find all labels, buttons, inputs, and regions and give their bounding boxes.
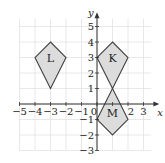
shape-label-l: L	[47, 52, 55, 65]
y-tick-label: 4	[88, 37, 94, 48]
y-axis-arrow-icon	[95, 12, 100, 18]
y-tick-label: −3	[79, 145, 94, 156]
x-tick-label: 3	[140, 106, 146, 117]
coordinate-plane: LKMxy−5−4−3−2−102354321−1−2−3	[0, 0, 165, 163]
y-tick-label: 1	[88, 83, 94, 94]
shape-label-k: K	[108, 52, 117, 65]
y-tick-label: −1	[79, 114, 94, 125]
x-tick-label: −4	[28, 106, 43, 117]
y-tick-label: 5	[88, 21, 94, 32]
shape-k	[97, 42, 128, 89]
x-axis-arrow-icon	[153, 102, 159, 107]
y-axis-label: y	[87, 7, 94, 18]
shape-l	[35, 42, 66, 89]
coordinate-grid-diagram: LKMxy−5−4−3−2−102354321−1−2−3	[0, 0, 165, 163]
y-tick-label: 3	[88, 52, 94, 63]
shape-label-m: M	[107, 107, 118, 120]
x-tick-label: −5	[12, 106, 27, 117]
x-axis-label: x	[157, 107, 163, 118]
x-tick-label: 2	[128, 106, 134, 117]
x-tick-label: −3	[43, 106, 58, 117]
y-tick-label: 2	[88, 68, 94, 79]
y-tick-label: −2	[79, 130, 94, 141]
x-tick-label: −2	[59, 106, 74, 117]
